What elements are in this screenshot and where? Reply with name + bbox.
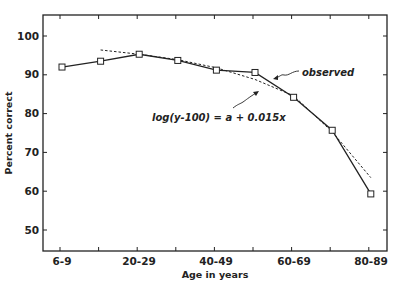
data-point-marker [252,69,258,75]
y-tick-60: 60 [24,185,39,197]
y-tick-90: 90 [24,68,39,80]
annotation-fit-equation: log(y-100) = a + 0.015x [152,112,286,123]
y-tick-70: 70 [24,146,39,158]
data-point-marker [213,67,219,73]
y-tick-80: 80 [24,107,39,119]
data-point-marker [136,51,142,57]
annotation-observed: observed [302,67,355,78]
x-axis-title: Age in years [182,269,249,280]
y-tick-50: 50 [24,224,39,236]
line-chart: 100 90 80 70 60 50 6-9 20-29 40-49 60-69… [0,0,400,284]
data-point-marker [98,58,104,64]
data-point-marker [291,94,297,100]
x-tick-labels: 6-9 20-29 40-49 60-69 80-89 [53,255,388,267]
y-axis-title: Percent correct [3,91,14,174]
y-tick-labels: 100 90 80 70 60 50 [17,30,39,236]
x-tick-60-69: 60-69 [277,255,311,267]
arrow-fit-icon [233,93,256,108]
data-point-marker [59,64,65,70]
x-tick-6-9: 6-9 [53,255,72,267]
arrow-observed-icon [275,71,299,78]
arrowhead-observed-icon [273,75,278,80]
x-tick-80-89: 80-89 [354,255,388,267]
data-point-marker [175,57,181,63]
x-tick-40-49: 40-49 [199,255,233,267]
y-tick-100: 100 [17,30,39,42]
x-tick-20-29: 20-29 [122,255,156,267]
arrowhead-fit-icon [253,91,259,96]
data-point-marker [368,191,374,197]
data-point-marker [329,127,335,133]
